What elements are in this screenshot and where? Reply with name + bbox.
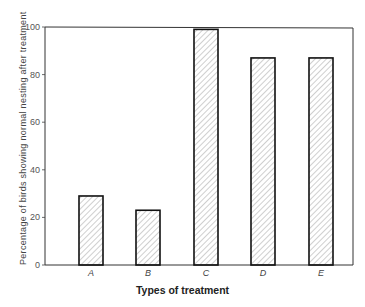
y-tick-label: 40: [30, 165, 40, 175]
x-tick-label: C: [203, 268, 210, 278]
x-tick-label: B: [145, 268, 151, 278]
bar-chart: 020406080100 ABCDE: [0, 0, 365, 307]
x-tick-label: E: [318, 268, 325, 278]
x-axis-label: Types of treatment: [0, 284, 365, 296]
bar-D: [251, 58, 275, 265]
y-tick-label: 60: [30, 117, 40, 127]
bar-C: [194, 29, 218, 265]
bar-A: [79, 196, 103, 265]
x-tick-label: A: [87, 268, 94, 278]
bar-B: [136, 210, 160, 265]
y-axis-label: Percentage of birds showing normal nesti…: [18, 15, 28, 265]
y-tick-label: 20: [30, 212, 40, 222]
x-tick-label: D: [260, 268, 267, 278]
bars: [79, 29, 333, 265]
y-tick-label: 0: [35, 260, 40, 270]
y-tick-label: 80: [30, 70, 40, 80]
bar-E: [309, 58, 333, 265]
x-axis: ABCDE: [87, 268, 325, 278]
